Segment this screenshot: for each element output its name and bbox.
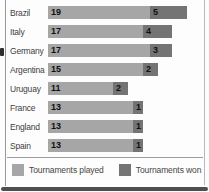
played-value: 19: [48, 6, 61, 19]
legend-label-won: Tournaments won: [136, 165, 202, 175]
won-value: 4: [143, 25, 151, 38]
won-segment: 1: [133, 120, 143, 133]
played-bar: 173: [48, 44, 172, 57]
row-label: Spain: [10, 141, 48, 151]
won-segment: 3: [150, 44, 172, 57]
played-bar: 195: [48, 6, 187, 19]
row-label: Germany: [10, 46, 48, 56]
bottom-border: [1, 187, 208, 191]
chart-row: Brazil195: [10, 3, 203, 22]
chart-row: Spain131: [10, 136, 203, 155]
won-value: 5: [150, 6, 158, 19]
won-value: 3: [150, 44, 158, 57]
played-bar: 131: [48, 139, 143, 152]
won-value: 1: [133, 101, 141, 114]
played-bar: 152: [48, 63, 158, 76]
chart-row: France131: [10, 98, 203, 117]
won-value: 1: [133, 120, 141, 133]
won-segment: 2: [143, 63, 158, 76]
row-label: Italy: [10, 27, 48, 37]
chart-row: Italy174: [10, 22, 203, 41]
played-swatch: [12, 164, 24, 176]
chart-legend: Tournaments played Tournaments won: [7, 157, 203, 176]
legend-item-won: Tournaments won: [114, 164, 202, 176]
legend-label-played: Tournaments played: [29, 165, 104, 175]
won-swatch: [119, 164, 131, 176]
won-segment: 2: [113, 82, 128, 95]
left-edge-mark: [0, 48, 4, 56]
played-bar: 131: [48, 101, 143, 114]
played-value: 13: [48, 120, 61, 133]
played-bar: 112: [48, 82, 128, 95]
played-value: 13: [48, 101, 61, 114]
chart-row: Argentina152: [10, 60, 203, 79]
row-label: England: [10, 122, 48, 132]
chart-row: Germany173: [10, 41, 203, 60]
won-segment: 1: [133, 139, 143, 152]
played-bar: 131: [48, 120, 143, 133]
won-value: 2: [113, 82, 121, 95]
played-bar: 174: [48, 25, 172, 38]
bar-chart: Brazil195Italy174Germany173Argentina152U…: [10, 3, 203, 155]
won-segment: 4: [143, 25, 172, 38]
chart-row: Uruguay112: [10, 79, 203, 98]
row-label: Argentina: [10, 65, 48, 75]
played-value: 15: [48, 63, 61, 76]
left-border-line: [5, 0, 6, 186]
chart-row: England131: [10, 117, 203, 136]
played-value: 17: [48, 44, 61, 57]
won-segment: 5: [150, 6, 187, 19]
row-label: Uruguay: [10, 84, 48, 94]
played-value: 13: [48, 139, 61, 152]
played-value: 11: [48, 82, 61, 95]
legend-item-played: Tournaments played: [7, 164, 104, 176]
won-value: 1: [133, 139, 141, 152]
won-value: 2: [143, 63, 151, 76]
row-label: France: [10, 103, 48, 113]
world-cup-chart-card: Brazil195Italy174Germany173Argentina152U…: [0, 0, 209, 192]
right-border-line: [204, 0, 205, 185]
won-segment: 1: [133, 101, 143, 114]
row-label: Brazil: [10, 8, 48, 18]
played-value: 17: [48, 25, 61, 38]
